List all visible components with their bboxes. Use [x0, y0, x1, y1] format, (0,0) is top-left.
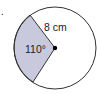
radius-label: 8 cm	[44, 21, 67, 33]
angle-label: 110°	[25, 43, 46, 55]
center-point	[53, 46, 57, 50]
circle-diagram: . 8 cm 110°	[0, 0, 97, 94]
item-marker: .	[1, 6, 4, 17]
